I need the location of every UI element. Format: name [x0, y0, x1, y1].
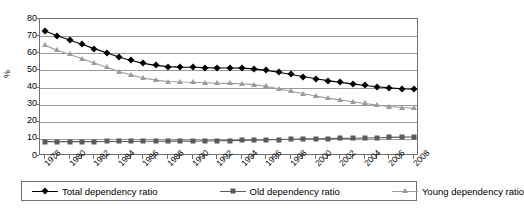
y-tick-label: 70 — [3, 31, 37, 40]
data-point-marker — [79, 56, 85, 61]
data-point-marker — [263, 83, 269, 88]
data-point-marker — [288, 88, 294, 93]
legend-label: Old dependency ratio — [250, 186, 340, 197]
data-point-marker — [338, 136, 343, 141]
data-point-marker — [289, 137, 294, 142]
y-tick-label: 20 — [3, 116, 37, 125]
y-tick-label: 0 — [3, 151, 37, 160]
data-point-marker — [178, 139, 183, 144]
data-point-marker — [325, 95, 331, 100]
data-point-marker — [386, 104, 392, 109]
data-point-marker — [67, 51, 73, 56]
data-point-marker — [92, 139, 97, 144]
data-point-marker — [42, 42, 48, 47]
data-point-marker — [166, 139, 171, 144]
data-point-marker — [165, 79, 171, 84]
legend-item[interactable]: Young dependency ratio — [392, 186, 524, 197]
y-tick-label: 80 — [3, 14, 37, 23]
y-tick-label: 50 — [3, 65, 37, 74]
data-point-marker — [214, 80, 220, 85]
data-point-marker — [190, 139, 195, 144]
data-point-marker — [350, 136, 355, 141]
data-point-marker — [91, 60, 97, 65]
y-axis: % 01020304050607080 — [0, 0, 37, 160]
data-point-marker — [276, 86, 282, 91]
data-point-marker — [153, 77, 159, 82]
series-line — [45, 45, 414, 108]
data-point-marker — [141, 139, 146, 144]
data-point-marker — [202, 80, 208, 85]
data-point-marker — [79, 139, 84, 144]
y-tick-label: 40 — [3, 82, 37, 91]
plot-area — [39, 18, 418, 155]
data-point-marker — [215, 138, 220, 143]
data-point-marker — [412, 134, 417, 139]
data-point-marker — [399, 105, 405, 110]
data-point-marker — [264, 137, 269, 142]
data-point-marker — [116, 139, 121, 144]
y-tick-label: 30 — [3, 99, 37, 108]
legend-label: Total dependency ratio — [62, 186, 158, 197]
data-point-marker — [387, 135, 392, 140]
data-point-marker — [300, 91, 306, 96]
series-layer — [40, 19, 417, 154]
data-point-marker — [67, 139, 72, 144]
legend-label: Young dependency ratio — [422, 186, 524, 197]
data-point-marker — [239, 81, 245, 86]
data-point-marker — [239, 138, 244, 143]
data-point-marker — [190, 79, 196, 84]
y-tick-label: 10 — [3, 133, 37, 142]
data-point-marker — [177, 79, 183, 84]
legend-item[interactable]: Old dependency ratio — [220, 186, 340, 197]
data-point-marker — [227, 80, 233, 85]
data-point-marker — [276, 137, 281, 142]
data-point-marker — [350, 99, 356, 104]
data-point-marker — [337, 97, 343, 102]
chart-legend: Total dependency ratioOld dependency rat… — [21, 181, 417, 201]
legend-key-square-icon — [220, 186, 246, 196]
data-point-marker — [104, 139, 109, 144]
data-point-marker — [104, 64, 110, 69]
data-point-marker — [54, 47, 60, 52]
data-point-marker — [374, 102, 380, 107]
data-point-marker — [313, 136, 318, 141]
legend-key-diamond-icon — [32, 186, 58, 196]
data-point-marker — [399, 135, 404, 140]
data-point-marker — [252, 138, 257, 143]
data-point-marker — [227, 138, 232, 143]
data-point-marker — [375, 135, 380, 140]
legend-item[interactable]: Total dependency ratio — [32, 186, 158, 197]
data-point-marker — [140, 75, 146, 80]
data-point-marker — [128, 72, 134, 77]
data-point-marker — [301, 136, 306, 141]
data-point-marker — [153, 139, 158, 144]
data-point-marker — [362, 100, 368, 105]
data-point-marker — [251, 82, 257, 87]
legend-key-triangle-icon — [392, 186, 418, 196]
data-point-marker — [362, 136, 367, 141]
data-point-marker — [411, 105, 417, 110]
data-point-marker — [325, 136, 330, 141]
data-point-marker — [313, 93, 319, 98]
y-tick-label: 60 — [3, 48, 37, 57]
data-point-marker — [129, 139, 134, 144]
data-point-marker — [202, 138, 207, 143]
data-point-marker — [43, 139, 48, 144]
data-point-marker — [55, 139, 60, 144]
data-point-marker — [116, 69, 122, 74]
